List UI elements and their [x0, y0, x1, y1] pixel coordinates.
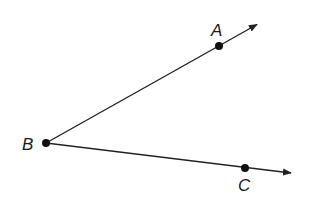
- ray-BC: [46, 143, 291, 173]
- label-C: C: [238, 177, 250, 194]
- label-A: A: [211, 22, 222, 39]
- label-B: B: [22, 136, 33, 153]
- ray-BA: [46, 25, 257, 144]
- angle-diagram: [0, 0, 323, 215]
- point-A: [215, 42, 223, 50]
- point-C: [241, 164, 249, 172]
- point-B: [42, 139, 50, 147]
